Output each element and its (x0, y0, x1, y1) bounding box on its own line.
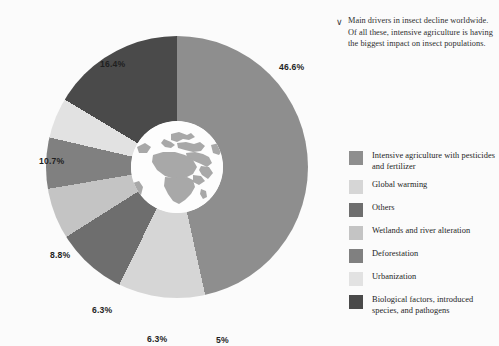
legend-item-label: Urbanization (372, 271, 416, 283)
legend-swatch-icon (349, 180, 363, 194)
slice-label: 6.3% (92, 305, 112, 315)
slice-label: 6.3% (147, 334, 167, 344)
legend-item: Urbanization (349, 271, 499, 287)
legend-swatch-icon (349, 226, 363, 240)
legend-item: Biological factors, introduced species, … (349, 294, 499, 316)
caption-text: Main drivers in insect decline worldwide… (348, 15, 494, 50)
legend-item-label: Intensive agriculture with pesticides an… (372, 150, 499, 172)
legend-swatch-icon (349, 249, 363, 263)
legend: Intensive agriculture with pesticides an… (349, 150, 499, 323)
legend-item: Global warming (349, 179, 499, 195)
slice-label: 10.7% (39, 156, 64, 166)
legend-item: Wetlands and river alteration (349, 225, 499, 241)
legend-swatch-icon (349, 203, 363, 217)
legend-swatch-icon (349, 151, 363, 165)
slice-label: 46.6% (279, 62, 304, 72)
legend-swatch-icon (349, 295, 363, 309)
slice-label: 16.4% (100, 59, 125, 69)
globe-graphic (131, 121, 223, 213)
legend-item-label: Wetlands and river alteration (372, 225, 470, 237)
legend-item-label: Others (372, 202, 395, 214)
caption-block: ∨ Main drivers in insect decline worldwi… (336, 15, 494, 50)
legend-item: Deforestation (349, 248, 499, 264)
globe-icon (131, 121, 223, 213)
legend-swatch-icon (349, 272, 363, 286)
slice-label: 8.8% (50, 250, 70, 260)
legend-item-label: Biological factors, introduced species, … (372, 294, 499, 316)
legend-item: Others (349, 202, 499, 218)
pie-chart: 46.6% 16.4% 10.7% 8.8% 6.3% 6.3% 5% (22, 22, 322, 324)
legend-item-label: Deforestation (372, 248, 418, 260)
chevron-down-icon: ∨ (336, 15, 343, 28)
slice-label: 5% (216, 335, 229, 345)
legend-item-label: Global warming (372, 179, 427, 191)
infographic-page: ∨ Main drivers in insect decline worldwi… (0, 0, 499, 346)
legend-item: Intensive agriculture with pesticides an… (349, 150, 499, 172)
